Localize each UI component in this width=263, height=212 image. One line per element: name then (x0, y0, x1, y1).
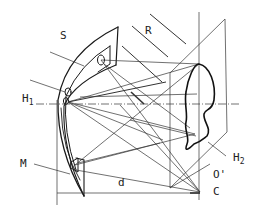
label-C: C (213, 186, 220, 197)
label-H1-sub: 1 (29, 98, 34, 107)
label-H1-main: H (22, 92, 29, 105)
object-contour (185, 64, 214, 149)
label-M: M (20, 158, 27, 169)
label-d: d (118, 177, 125, 188)
label-H2-main: H (233, 151, 240, 164)
label-H1: H1 (22, 93, 33, 104)
label-R: R (145, 25, 152, 36)
leader-S (50, 52, 84, 66)
r-line-1 (150, 14, 186, 44)
label-S: S (60, 30, 67, 41)
label-O-prime: O' (213, 169, 226, 180)
diagram-canvas: S R H1 M d H2 O' C (0, 0, 263, 212)
label-H2-sub: 2 (240, 157, 245, 166)
label-H2: H2 (233, 152, 244, 163)
shell-outer-arc (58, 27, 118, 196)
shell-top-edge (116, 27, 118, 65)
right-frame (170, 19, 227, 188)
leader-H1 (30, 80, 65, 92)
leader-M (34, 164, 70, 174)
h2-leader (208, 142, 226, 156)
